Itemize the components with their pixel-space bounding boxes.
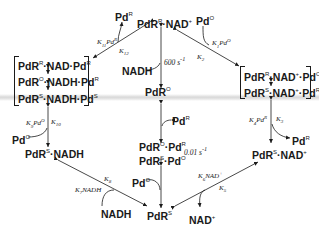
label-k6: K6NAD+	[198, 171, 223, 182]
label-k2: K2	[197, 53, 204, 62]
reagent-pd-r-top: PdR	[115, 9, 133, 23]
label-k10: K10	[51, 118, 61, 127]
arrow-pdo-left	[28, 128, 47, 137]
left-complex-2: PdRO·NADH·PdR	[18, 74, 99, 88]
reagent-pd-r-center: PdR	[172, 113, 190, 127]
species-pdr-s-nad: PdRS·NAD+	[252, 147, 307, 161]
reagent-pd-r-right: PdR	[292, 133, 310, 147]
label-k4: K4PdR	[249, 115, 267, 126]
arrow-release-pdr-right	[272, 124, 290, 138]
left-complex-1: PdRR·NAD·PdR	[18, 58, 91, 72]
arrow-nadh-bottom	[102, 190, 114, 206]
species-pdr-s-nadh: PdRS·NADH	[25, 146, 84, 160]
label-k5: K5	[219, 184, 226, 193]
label-k1: K1PdO	[212, 38, 231, 49]
species-pdr-o: PdRO	[145, 84, 171, 98]
arrow-k5-k6	[175, 162, 258, 206]
reagent-nad-bottom: NAD+	[189, 212, 215, 226]
arrow-pdr-center	[162, 120, 171, 126]
arrows-layer	[0, 0, 319, 232]
reagent-pd-o-top: PdO	[196, 13, 214, 27]
label-k11: K11PdR	[97, 37, 117, 48]
rate-001: 0.01 s-1	[184, 145, 207, 157]
left-complex-3: PdRS·NADH·PdS	[18, 91, 98, 105]
species-pdr-s: PdRS	[147, 208, 172, 222]
right-complex-1: PdRR·NAD+·PdO	[244, 69, 319, 83]
complex-line-2: PdRS·PdO	[139, 153, 186, 167]
reagent-nadh-center: NADH	[122, 66, 152, 77]
arrow-bind-pdo	[203, 26, 209, 45]
label-k7: K7NADH	[75, 186, 101, 195]
label-k9: K9PdO	[26, 118, 45, 129]
reagent-pd-o-left: PdO	[12, 132, 30, 146]
rate-600: 600 s-1	[164, 55, 185, 67]
right-complex-2: PdRS·NAD+·PdR	[244, 85, 319, 99]
species-pdr-r-nad: PdRR·NAD+	[137, 16, 192, 30]
arrow-release-pdr	[118, 22, 122, 42]
reagent-pd-o-bottom: PdO	[132, 175, 150, 189]
label-k8: K8	[104, 175, 111, 184]
reaction-scheme: PdRR·NAD+ PdR PdO K11PdR K12 K1PdO K2 60…	[0, 0, 319, 232]
reagent-nadh-bottom: NADH	[101, 209, 131, 220]
label-k12: K12	[119, 47, 129, 56]
label-k3: K3	[276, 115, 283, 124]
complex-line-1: PdRO·PdR	[139, 139, 186, 153]
